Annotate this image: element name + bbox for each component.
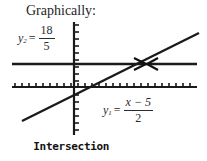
y-axis <box>74 22 79 135</box>
equation-y2-equals: = <box>29 31 36 46</box>
x-axis <box>12 83 197 87</box>
equation-y1-denominator: 2 <box>133 111 143 125</box>
equation-y1-equals: = <box>114 103 121 118</box>
equation-y2-denominator: 5 <box>42 39 52 53</box>
equation-y2-numerator: 18 <box>39 24 55 38</box>
equation-y1-subscript: 1 <box>108 109 112 117</box>
equation-y1-numerator: x − 5 <box>124 96 153 110</box>
figure-root: Graphically: <box>0 0 207 161</box>
readout-label: Intersection <box>33 140 109 153</box>
equation-label-y1: y1 = x − 5 2 <box>103 96 153 124</box>
equation-y2-fraction: 18 5 <box>39 24 55 52</box>
calculator-readout: Intersection X=12.2tY=3.6 <box>8 127 115 161</box>
equation-y2-subscript: 2 <box>23 37 27 45</box>
equation-y1-fraction: x − 5 2 <box>124 96 153 124</box>
equation-label-y2: y2 = 18 5 <box>18 24 55 52</box>
